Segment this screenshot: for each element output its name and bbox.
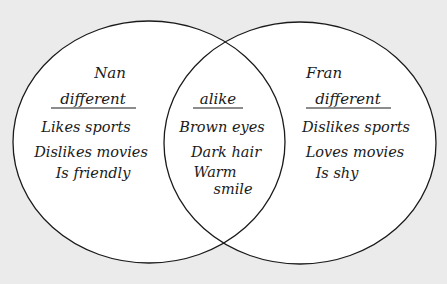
overlap-item: Warm <box>194 164 237 180</box>
right-set-name: Fran <box>305 64 342 82</box>
left-set-name: Nan <box>93 64 126 82</box>
venn-diagram: Nan different Likes sports Dislikes movi… <box>0 0 447 284</box>
overlap-item: Dark hair <box>190 144 262 160</box>
left-item: Likes sports <box>40 119 130 135</box>
left-item: Dislikes movies <box>33 144 148 160</box>
left-item: Is friendly <box>55 165 132 181</box>
right-heading: different <box>315 90 382 108</box>
right-circle-fill <box>164 22 436 264</box>
overlap-item: smile <box>213 181 252 197</box>
right-item: Loves movies <box>305 144 405 160</box>
right-item: Dislikes sports <box>301 119 410 135</box>
overlap-item: Brown eyes <box>178 119 264 135</box>
right-item: Is shy <box>315 165 360 181</box>
overlap-heading: alike <box>200 90 237 108</box>
left-heading: different <box>60 90 127 108</box>
